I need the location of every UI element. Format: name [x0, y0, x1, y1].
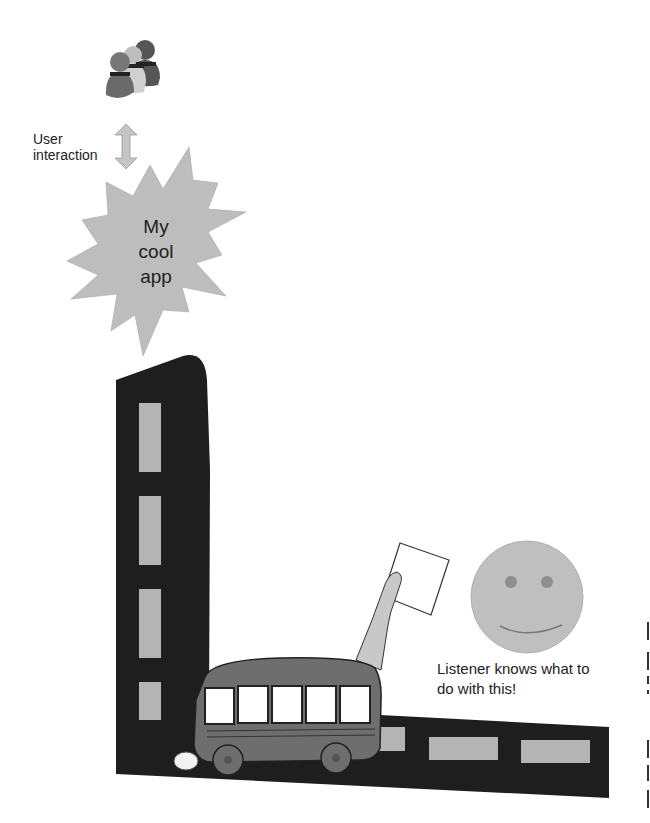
app-label-line: My	[116, 214, 196, 239]
bus-icon	[174, 658, 381, 775]
edge-mark	[647, 652, 649, 670]
edge-mark	[647, 690, 649, 694]
caption-line: do with this!	[437, 679, 590, 699]
road-dash	[377, 727, 405, 751]
app-label-line: app	[116, 264, 196, 289]
edge-mark	[647, 622, 649, 640]
edge-mark	[647, 765, 649, 781]
label-line: User	[33, 131, 98, 147]
listener-caption: Listener knows what to do with this!	[437, 659, 590, 699]
edge-mark	[647, 676, 649, 684]
road-dash	[521, 740, 590, 763]
double-arrow-icon	[115, 124, 137, 169]
user-interaction-label: User interaction	[33, 131, 98, 163]
edge-mark	[647, 740, 649, 758]
caption-line: Listener knows what to	[437, 659, 590, 679]
road-dash	[429, 737, 498, 760]
edge-mark	[647, 790, 649, 808]
road-dash	[139, 589, 161, 658]
smiley-face-icon	[471, 541, 583, 653]
diagram-canvas	[0, 0, 650, 823]
users-group-icon	[106, 40, 160, 98]
road-dash	[139, 403, 161, 472]
label-line: interaction	[33, 147, 98, 163]
road-dash	[139, 496, 161, 565]
app-label: My cool app	[116, 214, 196, 289]
hand-holding-paper-icon	[356, 543, 449, 670]
road-vertical	[116, 355, 210, 751]
app-label-line: cool	[116, 239, 196, 264]
